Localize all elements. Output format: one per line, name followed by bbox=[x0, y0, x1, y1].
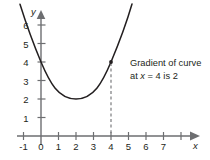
y-tick-label-4: 4 bbox=[20, 57, 32, 68]
x-tick-label-5: 5 bbox=[121, 141, 137, 152]
x-tick-label-2: 2 bbox=[68, 141, 84, 152]
y-tick-label-1: 1 bbox=[20, 113, 32, 124]
x-tick-label-6: 6 bbox=[138, 141, 154, 152]
x-axis-label: x bbox=[193, 140, 198, 151]
marked-point bbox=[109, 60, 113, 64]
x-axis bbox=[17, 132, 200, 141]
y-tick-label-5: 5 bbox=[20, 39, 32, 50]
x-tick-label-4: 4 bbox=[103, 141, 119, 152]
y-tick-label-3: 3 bbox=[20, 76, 32, 87]
y-axis-label: y bbox=[31, 6, 36, 17]
x-tick-label-0: 0 bbox=[33, 141, 49, 152]
x-tick-label-3: 3 bbox=[86, 141, 102, 152]
annotation-line-1: Gradient of curve bbox=[130, 57, 201, 70]
graph-figure: 6 5 4 3 2 1 -1 0 1 2 3 4 5 6 7 y x Gradi… bbox=[0, 0, 210, 160]
x-tick-label-neg1: -1 bbox=[15, 141, 32, 152]
x-tick-label-1: 1 bbox=[51, 141, 67, 152]
curve-parabola bbox=[20, 4, 132, 99]
annotation-prefix: at bbox=[130, 71, 140, 81]
gradient-annotation: Gradient of curve at x = 4 is 2 bbox=[130, 57, 201, 82]
annotation-suffix: = 4 is 2 bbox=[145, 71, 178, 81]
y-axis bbox=[37, 10, 46, 145]
x-tick-label-7: 7 bbox=[156, 141, 172, 152]
y-tick-label-6: 6 bbox=[20, 20, 32, 31]
annotation-line-2: at x = 4 is 2 bbox=[130, 70, 201, 83]
y-tick-label-2: 2 bbox=[20, 94, 32, 105]
